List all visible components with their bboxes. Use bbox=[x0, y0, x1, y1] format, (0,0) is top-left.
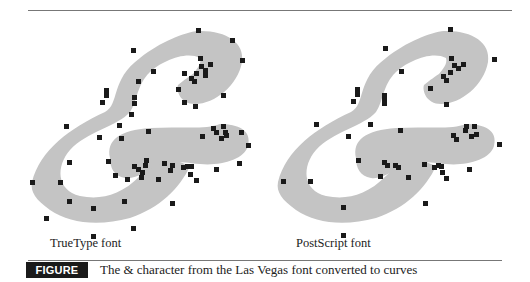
postscript-glyph bbox=[278, 31, 495, 223]
figure-caption: The & character from the Las Vegas font … bbox=[100, 262, 417, 278]
ampersand-illustration bbox=[0, 0, 530, 250]
caption-rule bbox=[28, 260, 502, 261]
postscript-label: PostScript font bbox=[296, 236, 371, 251]
figure-number-badge: FIGURE 32-1 bbox=[26, 262, 88, 278]
truetype-label: TrueType font bbox=[50, 236, 121, 251]
